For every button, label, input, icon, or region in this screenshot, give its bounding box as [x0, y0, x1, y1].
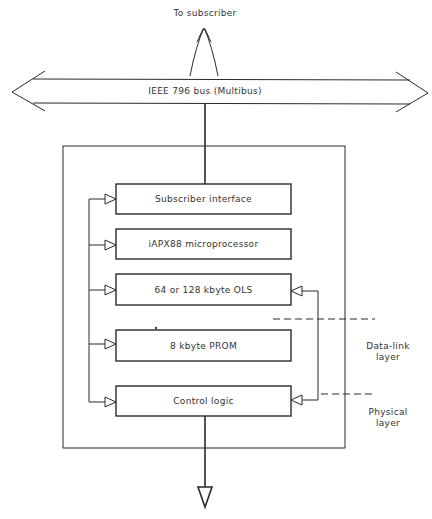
right-feedback-loop	[291, 286, 318, 405]
layer-label-line: Data-link	[353, 341, 423, 352]
to-subscriber-arrow-icon	[190, 28, 218, 76]
block-ols-memory: 64 or 128 kbyte OLS	[116, 274, 291, 305]
block-microprocessor: iAPX88 microprocessor	[116, 229, 291, 259]
output-arrow-icon	[198, 487, 212, 507]
physical-layer-label: Physical layer	[353, 407, 423, 429]
diagram-canvas	[0, 0, 432, 519]
block-prom: 8 kbyte PROM	[116, 330, 291, 361]
arrowhead-icon	[105, 240, 116, 250]
layer-label-line: layer	[353, 418, 423, 429]
arrowhead-icon	[105, 397, 116, 407]
block-control-logic: Control logic	[116, 386, 291, 416]
arrowhead-icon	[291, 395, 302, 405]
speck	[155, 327, 157, 329]
layer-label-line: Physical	[353, 407, 423, 418]
left-control-bus	[89, 194, 116, 407]
bus-label: IEEE 796 bus (Multibus)	[120, 86, 290, 96]
data-link-layer-label: Data-link layer	[353, 341, 423, 363]
arrowhead-icon	[105, 339, 116, 349]
arrowhead-icon	[291, 286, 302, 296]
arrowhead-icon	[105, 194, 116, 204]
wiring	[12, 28, 428, 507]
layer-label-line: layer	[353, 352, 423, 363]
block-subscriber-interface: Subscriber interface	[116, 184, 291, 214]
arrowhead-icon	[105, 285, 116, 295]
to-subscriber-label: To subscriber	[150, 8, 260, 18]
